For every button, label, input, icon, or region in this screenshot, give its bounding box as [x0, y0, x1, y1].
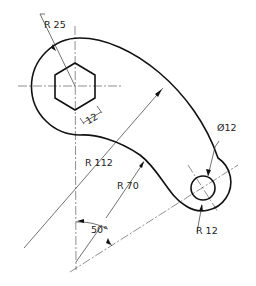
technical-drawing: R 25 12 R 112 R 70 Ø12 R 12 50° — [0, 0, 256, 286]
r70-label: R 70 — [117, 180, 139, 191]
dimensions: R 25 12 R 112 R 70 Ø12 R 12 50° — [24, 14, 237, 262]
hole-diameter-label: Ø12 — [217, 122, 237, 133]
hole-cross-centerline — [188, 165, 218, 212]
r70-arrow — [139, 161, 144, 168]
r112-label: R 112 — [85, 157, 113, 168]
r25-label: R 25 — [44, 19, 66, 30]
r12-arrow — [199, 204, 203, 211]
hole-arrow — [206, 169, 211, 176]
hex-size-label: 12 — [84, 111, 100, 127]
r12-label: R 12 — [196, 225, 218, 236]
angle-label: 50° — [91, 224, 108, 235]
